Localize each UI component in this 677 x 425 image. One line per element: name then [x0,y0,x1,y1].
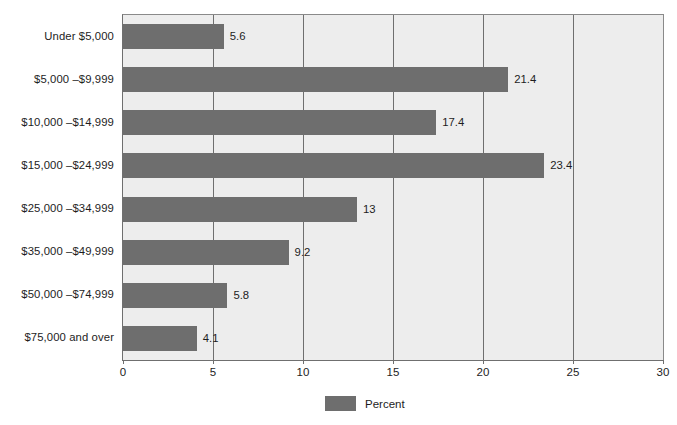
tick-mark-10 [303,360,304,364]
tick-mark-20 [483,360,484,364]
bar [123,283,227,308]
category-label: $5,000 –$9,999 [0,73,114,85]
bar [123,326,197,351]
category-label: $25,000 –$34,999 [0,202,114,214]
bar [123,240,289,265]
tick-mark-30 [663,360,664,364]
bar-value-label: 13 [357,197,376,222]
category-label: $10,000 –$14,999 [0,116,114,128]
bar [123,67,508,92]
bar [123,24,224,49]
bar [123,110,436,135]
bar [123,153,544,178]
tick-label-25: 25 [553,366,593,378]
tick-mark-15 [393,360,394,364]
tick-label-5: 5 [193,366,233,378]
legend-label-percent: Percent [365,398,405,410]
value-axis: 051015202530 [122,360,664,382]
bar-value-label: 9.2 [289,240,311,265]
category-label: $75,000 and over [0,331,114,343]
tick-label-20: 20 [463,366,503,378]
tick-label-30: 30 [643,366,677,378]
bars-layer: 5.621.417.423.4139.25.84.1 [123,15,663,360]
bar-value-label: 5.6 [224,24,246,49]
chart-legend: Percent [325,396,405,411]
bar-value-label: 23.4 [544,153,572,178]
bar [123,197,357,222]
category-label: $15,000 –$24,999 [0,159,114,171]
bar-value-label: 5.8 [227,283,249,308]
category-label: Under $5,000 [0,30,114,42]
bar-chart: Under $5,000$5,000 –$9,999$10,000 –$14,9… [0,0,677,425]
bar-value-label: 21.4 [508,67,536,92]
bar-value-label: 4.1 [197,326,219,351]
category-label: $50,000 –$74,999 [0,288,114,300]
tick-mark-5 [213,360,214,364]
bar-value-label: 17.4 [436,110,464,135]
category-axis: Under $5,000$5,000 –$9,999$10,000 –$14,9… [0,14,114,359]
tick-label-10: 10 [283,366,323,378]
category-label: $35,000 –$49,999 [0,245,114,257]
tick-mark-0 [123,360,124,364]
tick-mark-25 [573,360,574,364]
tick-label-0: 0 [103,366,143,378]
plot-area: 5.621.417.423.4139.25.84.1 [122,14,664,361]
tick-label-15: 15 [373,366,413,378]
legend-swatch-percent [325,396,356,411]
